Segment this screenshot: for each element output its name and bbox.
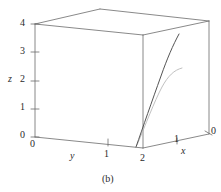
- plot-canvas: [0, 0, 221, 192]
- z-tick-label-3: 3: [20, 46, 25, 56]
- cube-edge-top-back-right: [100, 9, 209, 21]
- z-axis-label: z: [8, 74, 12, 84]
- dark-curve-path: [136, 34, 179, 147]
- tick-marks: [31, 24, 212, 146]
- figure-caption: (b): [102, 174, 114, 184]
- x-tick-label-0: 0: [211, 126, 216, 136]
- y-tick-label-1: 1: [104, 149, 109, 159]
- cube-edge-top-front-right: [143, 21, 209, 35]
- x-tick-label-1: 1: [174, 134, 179, 144]
- z-tick-label-1: 1: [20, 102, 25, 112]
- x-axis-label: x: [181, 146, 185, 156]
- cube-edge-bottom-y-axis: [35, 137, 143, 148]
- y-axis-label: y: [70, 151, 74, 161]
- z-tick-label-4: 4: [20, 18, 25, 28]
- z-tick-label-2: 2: [20, 74, 25, 84]
- cube-edge-top-front-left: [35, 24, 143, 35]
- cube-wireframe: [35, 9, 209, 148]
- z-tick-label-0: 0: [20, 130, 25, 140]
- y-tick-label-2: 2: [140, 153, 145, 163]
- cube-edge-top-back-left: [35, 9, 100, 24]
- y-tick-label-0: 0: [30, 139, 35, 149]
- figure-container: 0 1 2 3 4 z 0 1 2 y 1 0 x (b): [0, 0, 221, 192]
